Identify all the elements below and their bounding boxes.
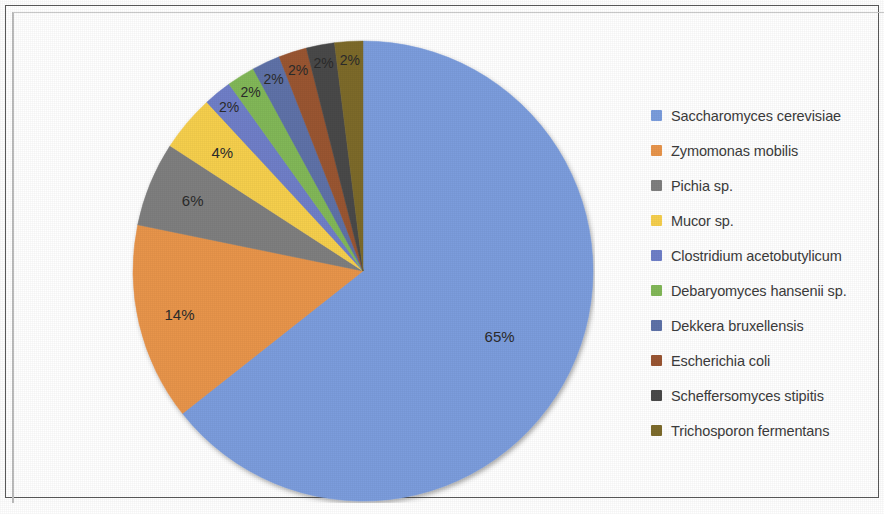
legend-color-swatch-icon — [651, 285, 662, 296]
legend-item[interactable]: Dekkera bruxellensis — [651, 308, 884, 343]
legend-item[interactable]: Saccharomyces cerevisiae — [651, 98, 884, 133]
legend-color-swatch-icon — [651, 145, 662, 156]
legend-item[interactable]: Escherichia coli — [651, 343, 884, 378]
legend-item[interactable]: Mucor sp. — [651, 203, 884, 238]
legend-color-swatch-icon — [651, 425, 662, 436]
legend-item[interactable]: Pichia sp. — [651, 168, 884, 203]
pie-slice-value-label: 2% — [340, 52, 360, 68]
legend-item-label: Debaryomyces hansenii sp. — [671, 283, 847, 299]
legend-color-swatch-icon — [651, 215, 662, 226]
pie-slice-value-label: 2% — [219, 99, 239, 115]
pie-slice-value-label: 2% — [264, 71, 284, 87]
pie-slice-value-label: 2% — [288, 62, 308, 78]
legend-item-label: Pichia sp. — [671, 178, 733, 194]
legend-color-swatch-icon — [651, 390, 662, 401]
chart-plot-area: 65%14%6%4%2%2%2%2%2%2% Saccharomyces cer… — [14, 14, 882, 501]
pie-slice-value-label: 2% — [240, 84, 260, 100]
legend-color-swatch-icon — [651, 320, 662, 331]
legend-color-swatch-icon — [651, 110, 662, 121]
pie-slice-value-label: 65% — [485, 328, 515, 345]
pie-slice-value-label: 2% — [314, 55, 334, 71]
legend-item-label: Clostridium acetobutylicum — [671, 248, 842, 264]
legend-color-swatch-icon — [651, 355, 662, 366]
legend-item-label: Zymomonas mobilis — [671, 143, 798, 159]
legend-item-label: Mucor sp. — [671, 213, 734, 229]
legend-item[interactable]: Debaryomyces hansenii sp. — [651, 273, 884, 308]
legend-item[interactable]: Scheffersomyces stipitis — [651, 378, 884, 413]
pie-svg: 65%14%6%4%2%2%2%2%2%2% — [131, 39, 595, 503]
legend-item-label: Saccharomyces cerevisiae — [671, 108, 841, 124]
legend-item[interactable]: Zymomonas mobilis — [651, 133, 884, 168]
legend-color-swatch-icon — [651, 180, 662, 191]
page-bottom-margin — [0, 503, 884, 514]
figure-frame: 65%14%6%4%2%2%2%2%2%2% Saccharomyces cer… — [5, 5, 879, 498]
legend-item[interactable]: Clostridium acetobutylicum — [651, 238, 884, 273]
pie-chart: 65%14%6%4%2%2%2%2%2%2% — [131, 39, 595, 503]
legend-item-label: Trichosporon fermentans — [671, 423, 829, 439]
scanned-page: 65%14%6%4%2%2%2%2%2%2% Saccharomyces cer… — [0, 0, 884, 514]
pie-slice-value-label: 4% — [211, 144, 233, 161]
pie-slice-value-label: 6% — [182, 192, 204, 209]
legend-item[interactable]: Trichosporon fermentans — [651, 413, 884, 448]
chart-legend: Saccharomyces cerevisiaeZymomonas mobili… — [651, 98, 884, 448]
legend-item-label: Dekkera bruxellensis — [671, 318, 804, 334]
pie-slice-group — [133, 41, 593, 501]
legend-color-swatch-icon — [651, 250, 662, 261]
pie-slice-value-label: 14% — [164, 306, 194, 323]
legend-item-label: Escherichia coli — [671, 353, 770, 369]
legend-item-label: Scheffersomyces stipitis — [671, 388, 824, 404]
